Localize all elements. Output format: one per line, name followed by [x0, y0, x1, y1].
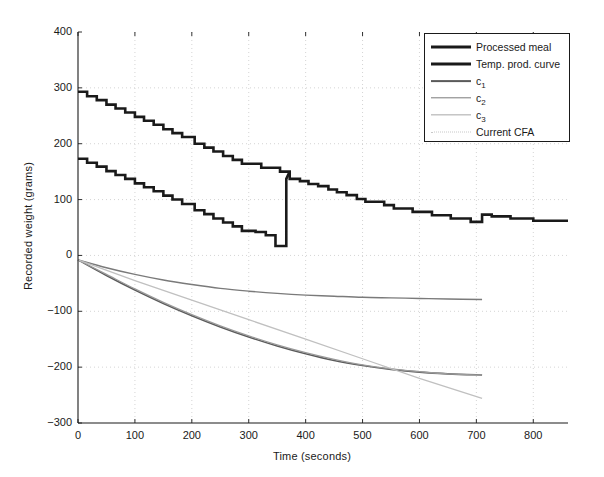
x-tick-label: 300 [229, 429, 269, 441]
x-tick-label: 700 [456, 429, 496, 441]
y-tick-label: 100 [26, 193, 72, 205]
legend-label: c2 [476, 93, 486, 104]
x-tick-label: 500 [343, 429, 383, 441]
y-tick-label: 400 [26, 25, 72, 37]
legend-item: c1 [425, 72, 571, 90]
legend-label: Current CFA [476, 127, 534, 138]
series-c1 [78, 260, 482, 375]
y-tick-label: 200 [26, 137, 72, 149]
x-tick-label: 0 [58, 429, 98, 441]
legend-line-sample [431, 109, 471, 121]
x-tick-label: 100 [115, 429, 155, 441]
legend-label: Processed meal [476, 42, 551, 53]
legend-line-sample [431, 75, 471, 87]
legend-line-sample [431, 41, 471, 53]
legend: Processed mealTemp. prod. curvec1c2c3Cur… [424, 33, 570, 142]
x-axis-label: Time (seconds) [0, 450, 604, 462]
legend-item: c2 [425, 89, 571, 107]
legend-label: Temp. prod. curve [476, 59, 560, 70]
series-temp-prod-curve [78, 159, 290, 246]
x-tick-label: 400 [286, 429, 326, 441]
legend-item: Temp. prod. curve [425, 55, 571, 73]
y-tick-label: −100 [26, 304, 72, 316]
legend-line-sample [431, 58, 471, 70]
y-tick-label: −200 [26, 360, 72, 372]
legend-label: c1 [476, 76, 486, 87]
x-tick-label: 200 [172, 429, 212, 441]
legend-item: c3 [425, 106, 571, 124]
legend-item: Current CFA [425, 123, 571, 141]
legend-line-sample [431, 126, 471, 138]
y-tick-label: −300 [26, 416, 72, 428]
series-c2 [78, 260, 482, 300]
y-tick-label: 0 [26, 248, 72, 260]
chart-figure: Time (seconds) Recorded weight (grams) 0… [0, 0, 604, 477]
x-tick-label: 800 [513, 429, 553, 441]
series-c3 [78, 260, 482, 375]
legend-line-sample [431, 92, 471, 104]
y-tick-label: 300 [26, 81, 72, 93]
legend-label: c3 [476, 110, 486, 121]
series-current-cfa [78, 260, 482, 399]
x-tick-label: 600 [399, 429, 439, 441]
legend-item: Processed meal [425, 38, 571, 56]
